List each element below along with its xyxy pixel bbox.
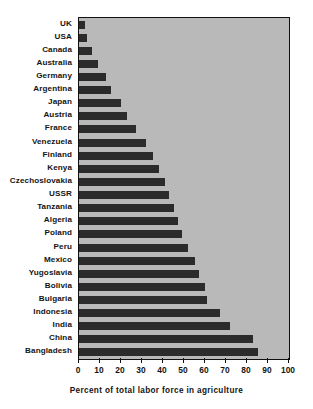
- y-axis-label: Peru: [54, 242, 72, 252]
- y-axis-label: France: [45, 123, 72, 133]
- y-axis-label: USSR: [49, 189, 72, 199]
- y-axis-label: Argentina: [33, 84, 72, 94]
- y-axis-label: Tanzania: [37, 202, 72, 212]
- bar: [79, 73, 106, 81]
- x-axis-title: Percent of total labor force in agricult…: [0, 386, 313, 395]
- y-axis-label: Bolivia: [45, 281, 72, 291]
- x-tick: [183, 358, 184, 363]
- bar: [79, 60, 98, 68]
- x-tick-label: 50: [178, 365, 187, 375]
- bar: [79, 283, 205, 291]
- x-tick-label: 80: [241, 365, 250, 375]
- x-tick: [141, 358, 142, 363]
- bar: [79, 217, 178, 225]
- x-tick-label: 60: [199, 365, 208, 375]
- bar: [79, 86, 111, 94]
- y-axis-label: Poland: [44, 228, 72, 238]
- bar: [79, 34, 87, 42]
- x-tick-label: 70: [220, 365, 229, 375]
- x-tick: [162, 358, 163, 363]
- bar: [79, 296, 207, 304]
- x-tick: [246, 358, 247, 363]
- x-tick-label: 90: [262, 365, 271, 375]
- bar: [79, 322, 230, 330]
- bar: [79, 257, 195, 265]
- bar: [79, 178, 165, 186]
- bar: [79, 335, 253, 343]
- y-axis-label: Finland: [43, 150, 72, 160]
- bar: [79, 152, 153, 160]
- y-axis-label: Indonesia: [33, 307, 72, 317]
- x-tick: [78, 358, 79, 363]
- y-axis-label: USA: [55, 32, 72, 42]
- y-axis-label: Mexico: [44, 255, 72, 265]
- bar: [79, 125, 136, 133]
- x-axis-tick-marks: [78, 358, 289, 364]
- y-axis-label: Germany: [36, 71, 72, 81]
- y-axis-label: Canada: [42, 45, 72, 55]
- bar: [79, 244, 188, 252]
- y-axis-label: Japan: [48, 97, 72, 107]
- y-axis-label: Bulgaria: [39, 294, 72, 304]
- plot-area: [78, 17, 290, 360]
- bar: [79, 270, 199, 278]
- x-tick-label: 0: [76, 365, 81, 375]
- x-tick: [99, 358, 100, 363]
- bar: [79, 139, 146, 147]
- bar: [79, 99, 121, 107]
- bar: [79, 47, 92, 55]
- bar: [79, 165, 159, 173]
- y-axis-label: Algeria: [44, 215, 72, 225]
- y-axis-label: UK: [60, 19, 72, 29]
- x-tick-label: 20: [115, 365, 124, 375]
- y-axis-label: China: [49, 333, 72, 343]
- y-axis-label: Austria: [43, 110, 72, 120]
- y-axis-label: Yugoslavia: [29, 268, 72, 278]
- x-tick-label: 30: [136, 365, 145, 375]
- y-axis-label: Kenya: [47, 163, 72, 173]
- bar: [79, 21, 85, 29]
- bar: [79, 309, 220, 317]
- bar-chart-figure: UKUSACanadaAustraliaGermanyArgentinaJapa…: [0, 0, 313, 409]
- y-axis-category-labels: UKUSACanadaAustraliaGermanyArgentinaJapa…: [0, 17, 75, 358]
- y-axis-label: Bangladesh: [25, 346, 72, 356]
- x-tick: [288, 358, 289, 363]
- bar: [79, 348, 258, 356]
- bar: [79, 191, 169, 199]
- x-axis-tick-labels: 0102030405060708090100: [78, 365, 289, 377]
- bar: [79, 230, 182, 238]
- x-tick-label: 40: [157, 365, 166, 375]
- x-tick: [204, 358, 205, 363]
- y-axis-label: Czechoslovakia: [10, 176, 72, 186]
- x-tick: [120, 358, 121, 363]
- x-tick: [267, 358, 268, 363]
- x-tick: [225, 358, 226, 363]
- bar: [79, 204, 174, 212]
- y-axis-label: India: [53, 320, 72, 330]
- y-axis-label: Venezuela: [32, 137, 72, 147]
- y-axis-label: Australia: [36, 58, 72, 68]
- x-tick-label: 100: [281, 365, 295, 375]
- bar: [79, 112, 127, 120]
- bars-container: [79, 18, 289, 359]
- x-tick-label: 10: [94, 365, 103, 375]
